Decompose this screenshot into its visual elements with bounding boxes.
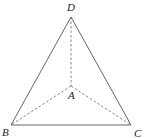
edge-DB (11, 17, 71, 125)
label-A: A (67, 89, 75, 101)
edge-DC (71, 17, 131, 125)
edge-AB-hidden (11, 86, 71, 125)
edge-AC-hidden (71, 86, 131, 125)
label-D: D (66, 1, 75, 13)
tetrahedron-diagram: D A B C (0, 0, 144, 138)
label-C: C (134, 127, 142, 138)
label-B: B (2, 126, 9, 138)
